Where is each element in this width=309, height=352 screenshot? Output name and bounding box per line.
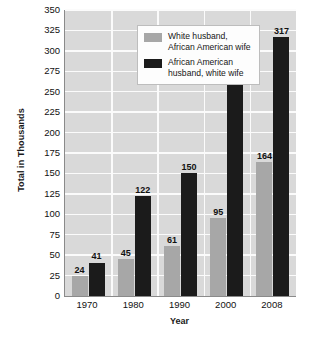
y-axis-tick-label: 225 [44, 107, 60, 117]
bar-value-label: 61 [167, 236, 177, 245]
bar-value-label: 164 [257, 152, 272, 161]
y-axis-tick-label: 200 [44, 128, 60, 138]
y-axis-title: Total in Thousands [10, 0, 32, 300]
bar [227, 77, 243, 296]
y-axis-tick-label: 350 [44, 5, 60, 15]
y-axis-tick-label: 0 [55, 291, 60, 301]
y-axis-tick-labels: 0255075100125150175200225250275300325350 [30, 10, 60, 296]
y-axis-tick-label: 25 [49, 271, 60, 281]
legend-entry-label: White husband, African American wife [168, 31, 251, 52]
y-axis-tick-label: 125 [44, 189, 60, 199]
x-axis-tick-label: 2008 [261, 299, 282, 310]
bar-value-label: 122 [135, 186, 150, 195]
plot-area: 2441451226115095268164317 White husband,… [64, 10, 296, 297]
y-axis-tick-label: 250 [44, 87, 60, 97]
y-axis-tick-label: 50 [49, 250, 60, 260]
y-axis-title-label: Total in Thousands [16, 108, 26, 192]
chart-legend: White husband, African American wife Afr… [137, 25, 260, 85]
y-axis-tick-label: 325 [44, 26, 60, 36]
bar [135, 196, 151, 296]
bar [210, 218, 226, 296]
bar [72, 276, 88, 296]
bar-chart-figure: Total in Thousands 025507510012515017520… [0, 0, 309, 352]
bar-value-label: 41 [92, 252, 102, 261]
x-axis-tick-labels: 19701980199020002008 [64, 299, 295, 315]
bar [164, 246, 180, 296]
bar-value-label: 45 [121, 249, 131, 258]
y-axis-tick-label: 300 [44, 46, 60, 56]
bar [273, 37, 289, 296]
bar [181, 173, 197, 296]
bar [118, 259, 134, 296]
x-axis-tick-label: 2000 [215, 299, 236, 310]
bar-value-label: 24 [75, 266, 85, 275]
series-0-swatch-icon [144, 33, 162, 42]
x-axis-tick-label: 1970 [77, 299, 98, 310]
bar-value-label: 95 [213, 208, 223, 217]
bar-value-label: 317 [274, 27, 289, 36]
x-axis-tick-label: 1990 [169, 299, 190, 310]
x-axis-title: Year [64, 316, 295, 326]
bar [256, 162, 272, 296]
legend-entry-label: African American husband, white wife [168, 57, 243, 78]
legend-entry: African American husband, white wife [144, 57, 251, 78]
y-axis-tick-label: 150 [44, 169, 60, 179]
y-axis-tick-label: 275 [44, 67, 60, 77]
y-axis-tick-label: 175 [44, 148, 60, 158]
y-axis-tick-label: 100 [44, 210, 60, 220]
x-axis-tick-label: 1980 [123, 299, 144, 310]
legend-entry: White husband, African American wife [144, 31, 251, 52]
y-axis-tick-label: 75 [49, 230, 60, 240]
bar [89, 263, 105, 297]
bar-value-label: 150 [181, 163, 196, 172]
series-1-swatch-icon [144, 59, 162, 68]
